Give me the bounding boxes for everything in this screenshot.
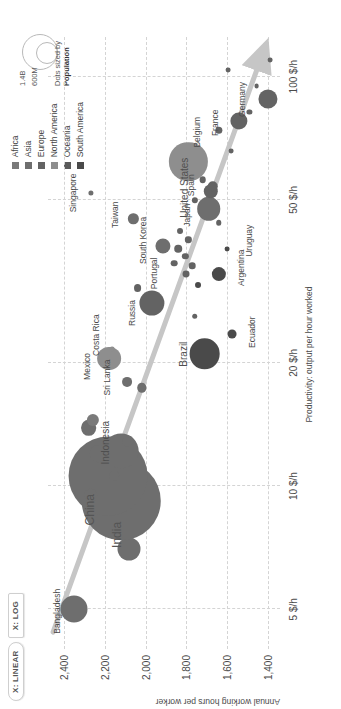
y-tick-label: 1,800 bbox=[181, 655, 192, 701]
point-label-taiwan: Taiwan bbox=[110, 201, 120, 227]
data-point-uruguay[interactable] bbox=[225, 246, 230, 251]
data-point-germany[interactable] bbox=[258, 90, 277, 109]
point-label-spain: Spain bbox=[186, 174, 196, 196]
data-point[interactable] bbox=[177, 228, 183, 234]
data-point[interactable] bbox=[268, 57, 273, 62]
point-label-singapore: Singapore bbox=[68, 174, 78, 213]
x-tick-label: 20 $/h bbox=[288, 349, 299, 377]
point-label-ecuador: Ecuador bbox=[247, 316, 257, 348]
point-label-mexico: Mexico bbox=[82, 353, 92, 380]
point-label-russia: Russia bbox=[127, 300, 137, 326]
data-point[interactable] bbox=[192, 313, 198, 319]
legend-item-europe[interactable]: Europe bbox=[36, 102, 46, 169]
x-tick-label: 5 $/h bbox=[288, 598, 299, 620]
x-axis-title: Productivity: output per hour worked bbox=[304, 0, 314, 709]
legend-item-asia[interactable]: Asia bbox=[23, 102, 33, 169]
data-point[interactable] bbox=[226, 67, 231, 72]
x-tick-label: 50 $/h bbox=[288, 186, 299, 214]
x-tick-label: 100 $/h bbox=[288, 60, 299, 93]
data-point[interactable] bbox=[189, 263, 196, 270]
y-tick-label: 2,200 bbox=[99, 655, 110, 701]
data-point[interactable] bbox=[174, 245, 182, 253]
y-tick-label: 1,400 bbox=[262, 655, 273, 701]
data-point[interactable] bbox=[199, 176, 206, 183]
point-label-indonesia: Indonesia bbox=[100, 421, 111, 464]
data-point[interactable] bbox=[208, 181, 219, 192]
data-point-portugal[interactable] bbox=[171, 260, 178, 267]
data-point[interactable] bbox=[109, 471, 119, 481]
legend-item-label: Africa bbox=[10, 136, 20, 158]
data-point-japan[interactable] bbox=[197, 197, 221, 221]
data-point[interactable] bbox=[254, 83, 259, 88]
point-label-uruguay: Uruguay bbox=[244, 225, 254, 257]
point-label-brazil: Brazil bbox=[177, 342, 188, 367]
size-legend-small-label: 600M bbox=[30, 67, 39, 86]
trend-arrow bbox=[48, 37, 280, 649]
y-tick-label: 2,400 bbox=[59, 655, 70, 701]
y-axis-title: Annual working hours per worker bbox=[156, 697, 280, 707]
legend-item-label: Asia bbox=[23, 141, 33, 158]
x-linear-toggle[interactable]: X: LINEAR bbox=[8, 642, 24, 701]
point-label-belgium: Belgium bbox=[192, 117, 202, 148]
point-label-costa-rica: Costa Rica bbox=[91, 314, 101, 356]
x-log-toggle[interactable]: X: LOG bbox=[8, 593, 24, 638]
point-label-japan: Japan bbox=[182, 203, 192, 226]
chart-figure: X: LINEAR X: LOG AfricaAsiaEuropeNorth A… bbox=[0, 0, 341, 709]
data-point[interactable] bbox=[123, 435, 134, 446]
data-point-bangladesh[interactable] bbox=[61, 596, 88, 623]
point-label-sri-lanka: Sri Lanka bbox=[102, 360, 112, 396]
legend-swatch-icon bbox=[38, 162, 45, 169]
point-label-bangladesh: Bangladesh bbox=[52, 589, 62, 634]
data-point[interactable] bbox=[134, 284, 142, 292]
data-point[interactable] bbox=[183, 270, 190, 277]
data-point-sri-lanka[interactable] bbox=[122, 377, 132, 387]
data-point-russia[interactable] bbox=[139, 290, 164, 315]
data-point[interactable] bbox=[229, 148, 234, 153]
data-point[interactable] bbox=[195, 282, 201, 288]
point-label-south-korea: South Korea bbox=[138, 217, 148, 264]
point-label-china: China bbox=[83, 494, 97, 525]
y-tick-label: 1,600 bbox=[222, 655, 233, 701]
point-label-portugal: Portugal bbox=[149, 258, 159, 290]
data-point-south-korea[interactable] bbox=[155, 239, 170, 254]
plot-area: BangladeshIndiaChinaIndonesiaSri LankaMe… bbox=[48, 37, 280, 649]
data-point-costa-rica[interactable] bbox=[110, 347, 115, 352]
point-label-germany: Germany bbox=[237, 82, 247, 117]
x-tick-label: 10 $/h bbox=[288, 472, 299, 500]
data-point[interactable] bbox=[216, 220, 222, 226]
legend-item-africa[interactable]: Africa bbox=[10, 102, 20, 169]
point-label-france: France bbox=[210, 110, 220, 136]
point-label-india: India bbox=[110, 522, 124, 548]
y-tick-label: 2,000 bbox=[140, 655, 151, 701]
size-legend-large-label: 1.4B bbox=[18, 71, 27, 86]
legend-swatch-icon bbox=[25, 162, 32, 169]
legend-item-label: Europe bbox=[36, 130, 46, 157]
data-point-ecuador[interactable] bbox=[228, 330, 237, 339]
rotated-figure-wrapper: X: LINEAR X: LOG AfricaAsiaEuropeNorth A… bbox=[0, 0, 341, 709]
x-scale-toggle-group[interactable]: X: LINEAR X: LOG bbox=[8, 593, 24, 701]
legend-swatch-icon bbox=[12, 162, 19, 169]
data-point-brazil[interactable] bbox=[189, 339, 220, 370]
